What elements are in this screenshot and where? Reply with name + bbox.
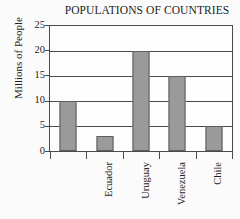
y-tick-mark [45,151,49,152]
x-tick-mark [196,152,197,159]
x-tick-label: Chile [213,162,224,219]
y-tick-mark [45,126,49,127]
y-tick-label: 15 [17,70,45,81]
x-tick-mark [232,152,233,159]
y-tick-label: 10 [17,95,45,106]
bar-slot [86,26,122,151]
bar-slot [196,26,232,151]
y-tick-label: 25 [17,20,45,31]
x-tick-label: Uruguay [141,162,152,219]
y-tick-mark [45,50,49,51]
bar-chart: POPULATIONS OF COUNTRIES Millions of Peo… [0,0,240,219]
bar-slot [123,26,159,151]
y-tick-label: 5 [17,120,45,131]
x-tick-mark [123,152,124,159]
y-tick-label: 20 [17,45,45,56]
bar [60,101,77,151]
y-tick-mark [45,75,49,76]
x-tick-mark [86,152,87,159]
y-tick-mark [45,25,49,26]
bar-series [50,26,232,151]
bar-slot [159,26,195,151]
chart-title: POPULATIONS OF COUNTRIES [56,4,238,16]
bar [169,76,186,151]
x-tick-mark [159,152,160,159]
bar-slot [50,26,86,151]
x-tick-label: Venezuela [177,162,188,219]
x-tick-label: Ecuador [104,162,115,219]
y-tick-label: 0 [17,146,45,157]
bar [96,136,113,151]
bar [132,51,149,151]
x-tick-mark [50,152,51,159]
bar [205,126,222,151]
y-tick-mark [45,101,49,102]
